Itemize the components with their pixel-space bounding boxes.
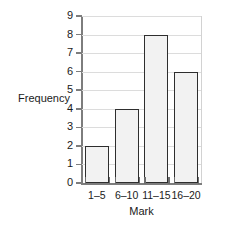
x-axis-tick	[115, 177, 116, 184]
plot-right-frame	[201, 16, 202, 183]
bar	[174, 72, 198, 183]
x-axis-tick-label: 16–20	[163, 189, 209, 201]
gridline	[82, 16, 201, 17]
x-axis-line	[81, 183, 202, 185]
bar	[85, 146, 109, 183]
y-axis-tick-label: 5	[53, 84, 73, 95]
bar	[115, 109, 139, 183]
x-axis-label: Mark	[82, 205, 201, 218]
y-axis-tick-label: 9	[53, 10, 73, 21]
y-axis-tick-label: 6	[53, 66, 73, 77]
y-axis-tick-label: 0	[53, 177, 73, 188]
y-axis-tick-label: 1	[53, 158, 73, 169]
x-axis-tick	[109, 177, 110, 184]
y-axis-tick-label: 3	[53, 121, 73, 132]
x-axis-tick	[198, 177, 199, 184]
x-axis-tick	[174, 177, 175, 184]
y-axis-tick-label: 8	[53, 29, 73, 40]
y-axis-tick-label: 4	[53, 103, 73, 114]
x-axis-tick	[144, 177, 145, 184]
y-axis-tick-label: 7	[53, 47, 73, 58]
bar	[144, 35, 168, 183]
plot-area	[82, 16, 201, 183]
x-axis-tick	[139, 177, 140, 184]
x-axis-tick	[168, 177, 169, 184]
gridline	[82, 35, 201, 36]
bar-chart: Frequency 0123456789 1–56–1011–1516–20 M…	[0, 0, 249, 226]
gridline	[82, 53, 201, 54]
y-axis-tick-label: 2	[53, 140, 73, 151]
x-axis-tick	[85, 177, 86, 184]
